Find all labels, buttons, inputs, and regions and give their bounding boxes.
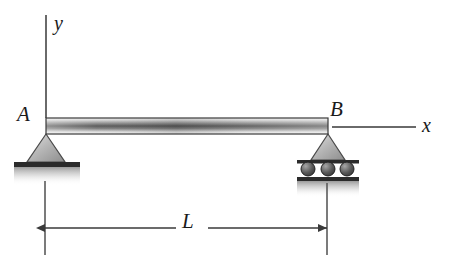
ground-shadow-a xyxy=(14,167,80,185)
roller-circle xyxy=(301,162,315,176)
roller-circle xyxy=(340,162,354,176)
beam-diagram-canvas xyxy=(0,0,450,270)
pin-support-triangle-a xyxy=(27,134,65,162)
beam-highlight xyxy=(46,118,328,134)
label-axis-x: x xyxy=(422,115,431,135)
label-span-length: L xyxy=(182,211,194,232)
label-point-b: B xyxy=(330,99,343,120)
roller-support-triangle-b xyxy=(311,134,345,160)
roller-lower-bar xyxy=(297,177,359,181)
roller-circle xyxy=(321,162,335,176)
ground-bar-a xyxy=(14,162,80,167)
label-axis-y: y xyxy=(54,13,63,33)
ground-shadow-b xyxy=(297,181,359,197)
beam-diagram-figure: A B y x L xyxy=(0,0,450,270)
label-point-a: A xyxy=(17,104,30,125)
